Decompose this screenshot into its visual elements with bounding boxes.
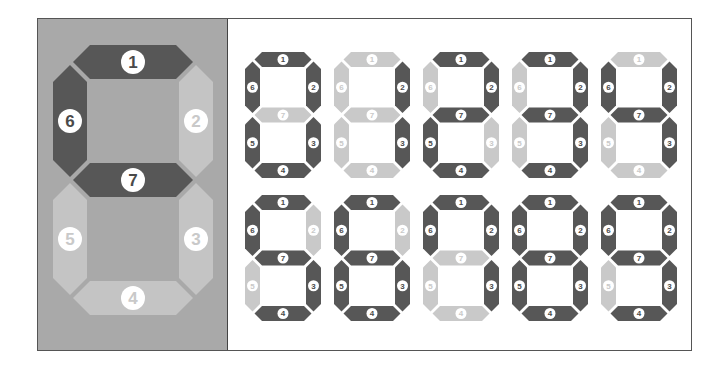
segment-7-label: 7 — [459, 111, 464, 120]
segment-4-label: 4 — [128, 289, 138, 308]
segment-5-label: 5 — [339, 282, 344, 291]
segment-6-label: 6 — [250, 83, 255, 92]
segment-5-label: 5 — [428, 139, 433, 148]
digit-2: 1234567 — [423, 52, 499, 178]
digit-1: 1234567 — [334, 52, 410, 178]
segment-4-label: 4 — [548, 166, 553, 175]
segment-6-label: 6 — [517, 226, 522, 235]
segment-2-label: 2 — [311, 226, 316, 235]
segment-1-label: 1 — [128, 53, 137, 72]
big-seven-segment-digit: 1234567 — [38, 19, 227, 350]
segment-5-label: 5 — [65, 230, 74, 249]
segment-4-label: 4 — [459, 309, 464, 318]
segment-1-label: 1 — [370, 198, 375, 207]
segment-2-label: 2 — [489, 226, 494, 235]
digit-8: 1234567 — [512, 195, 588, 321]
segment-3-label: 3 — [578, 139, 583, 148]
segment-4-label: 4 — [548, 309, 553, 318]
segment-6-label: 6 — [65, 112, 74, 131]
segment-6-label: 6 — [428, 226, 433, 235]
big-digit-panel: 1234567 — [38, 19, 228, 350]
segment-2-label: 2 — [191, 112, 200, 131]
segment-1-label: 1 — [637, 55, 642, 64]
segment-7-label: 7 — [548, 111, 553, 120]
digit-6: 1234567 — [334, 195, 410, 321]
segment-2-label: 2 — [667, 226, 672, 235]
segment-4-label: 4 — [370, 166, 375, 175]
segment-4-label: 4 — [281, 309, 286, 318]
diagram-frame: 1234567 12345671234567123456712345671234… — [37, 18, 692, 351]
segment-5-label: 5 — [517, 282, 522, 291]
segment-4-label: 4 — [370, 309, 375, 318]
digit-5: 1234567 — [245, 195, 321, 321]
segment-1-label: 1 — [281, 55, 286, 64]
segment-2-label: 2 — [667, 83, 672, 92]
segment-3-label: 3 — [400, 282, 405, 291]
segment-1-label: 1 — [459, 55, 464, 64]
segment-2-label: 2 — [578, 226, 583, 235]
segment-1-label: 1 — [548, 198, 553, 207]
segment-5-label: 5 — [428, 282, 433, 291]
segment-3-label: 3 — [311, 139, 316, 148]
segment-7-label: 7 — [548, 254, 553, 263]
segment-3-label: 3 — [191, 230, 200, 249]
segment-4-label: 4 — [459, 166, 464, 175]
segment-4-label: 4 — [637, 309, 642, 318]
segment-3-label: 3 — [489, 139, 494, 148]
segment-7-label: 7 — [281, 111, 286, 120]
segment-6-label: 6 — [428, 83, 433, 92]
segment-5-label: 5 — [250, 139, 255, 148]
segment-7-label: 7 — [281, 254, 286, 263]
segment-3-label: 3 — [667, 139, 672, 148]
segment-6-label: 6 — [606, 226, 611, 235]
digit-grid: 1234567123456712345671234567123456712345… — [228, 19, 693, 350]
digit-7: 1234567 — [423, 195, 499, 321]
segment-3-label: 3 — [400, 139, 405, 148]
segment-3-label: 3 — [578, 282, 583, 291]
segment-5-label: 5 — [606, 139, 611, 148]
segment-6-label: 6 — [339, 83, 344, 92]
segment-7-label: 7 — [637, 111, 642, 120]
segment-7-label: 7 — [637, 254, 642, 263]
segment-6-label: 6 — [250, 226, 255, 235]
segment-3-label: 3 — [489, 282, 494, 291]
segment-2-label: 2 — [578, 83, 583, 92]
segment-1-label: 1 — [548, 55, 553, 64]
segment-1-label: 1 — [637, 198, 642, 207]
segment-5-label: 5 — [517, 139, 522, 148]
segment-1-label: 1 — [281, 198, 286, 207]
segment-2-label: 2 — [400, 226, 405, 235]
segment-5-label: 5 — [250, 282, 255, 291]
digit-4: 1234567 — [601, 52, 677, 178]
segment-5-label: 5 — [339, 139, 344, 148]
big-digit: 1234567 — [53, 45, 213, 315]
segment-4-label: 4 — [281, 166, 286, 175]
segment-6-label: 6 — [339, 226, 344, 235]
digit-3: 1234567 — [512, 52, 588, 178]
segment-7-label: 7 — [128, 171, 137, 190]
segment-2-label: 2 — [400, 83, 405, 92]
segment-2-label: 2 — [489, 83, 494, 92]
segment-6-label: 6 — [517, 83, 522, 92]
segment-3-label: 3 — [667, 282, 672, 291]
segment-1-label: 1 — [459, 198, 464, 207]
digit-9: 1234567 — [601, 195, 677, 321]
segment-4-label: 4 — [637, 166, 642, 175]
segment-7-label: 7 — [370, 111, 375, 120]
segment-7-label: 7 — [459, 254, 464, 263]
segment-6-label: 6 — [606, 83, 611, 92]
segment-3-label: 3 — [311, 282, 316, 291]
segment-2-label: 2 — [311, 83, 316, 92]
segment-1-label: 1 — [370, 55, 375, 64]
digit-0: 1234567 — [245, 52, 321, 178]
segment-7-label: 7 — [370, 254, 375, 263]
segment-5-label: 5 — [606, 282, 611, 291]
